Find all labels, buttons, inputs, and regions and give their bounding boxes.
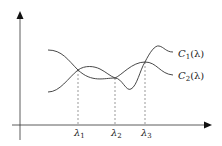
diagram-canvas: C1(λ) C2(λ) λ1 λ2 λ3: [0, 0, 222, 146]
x-axis-arrow-icon: [204, 122, 212, 129]
label-lambda2: λ2: [110, 127, 122, 140]
label-c2: C2(λ): [178, 70, 204, 83]
curve-c1: [48, 46, 173, 90]
label-lambda1: λ1: [73, 127, 85, 140]
y-axis-arrow-icon: [17, 11, 24, 19]
label-c1: C1(λ): [178, 48, 204, 61]
label-lambda3: λ3: [140, 127, 152, 140]
curve-c2: [48, 62, 173, 92]
